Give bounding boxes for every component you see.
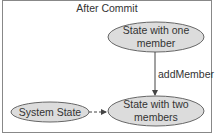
edge-label: addMember [158, 68, 215, 80]
diagram-canvas: After Commit State with one member addMe… [0, 0, 216, 139]
node-state-two-members: State with two members [108, 96, 204, 126]
node-system-state: System State [11, 102, 89, 122]
node-label-line1: State with two [123, 98, 189, 110]
node-label-line1: State with one [123, 24, 190, 36]
node-label: System State [19, 106, 82, 118]
node-label-line2: member [137, 37, 176, 49]
diagram-title: After Commit [76, 2, 137, 14]
node-label-line2: members [134, 111, 178, 123]
node-state-one-member: State with one member [108, 22, 204, 52]
